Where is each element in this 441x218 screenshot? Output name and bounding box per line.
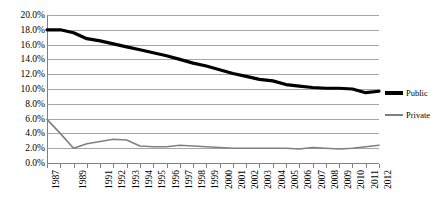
y-tick-label: 4.0% xyxy=(1,129,45,138)
x-tick-mark xyxy=(60,164,61,168)
x-tick-mark xyxy=(246,164,247,168)
x-tick-mark xyxy=(100,164,101,168)
y-tick-label: 6.0% xyxy=(1,114,45,123)
x-tick-mark xyxy=(313,164,314,168)
x-tick-label: 1991 xyxy=(104,170,114,189)
x-tick-label: 1987 xyxy=(51,170,61,189)
plot-area xyxy=(47,15,379,163)
x-tick-label: 2005 xyxy=(290,170,300,189)
x-tick-mark xyxy=(167,164,168,168)
x-tick-mark xyxy=(193,164,194,168)
y-tick-label: 0.0% xyxy=(1,159,45,168)
x-tick-mark xyxy=(47,164,48,168)
x-tick-label: 1995 xyxy=(157,170,167,189)
x-tick-mark xyxy=(379,164,380,168)
x-tick-label: 1992 xyxy=(117,170,127,189)
x-tick-mark xyxy=(127,164,128,168)
x-tick-label: 1993 xyxy=(131,170,141,189)
x-tick-mark xyxy=(74,164,75,168)
x-tick-label: 2010 xyxy=(356,170,366,189)
x-tick-label: 2008 xyxy=(330,170,340,189)
y-tick-label: 16.0% xyxy=(1,40,45,49)
x-tick-label: 2006 xyxy=(303,170,313,189)
legend-item-public: Public xyxy=(385,86,441,100)
x-tick-mark xyxy=(326,164,327,168)
x-tick-mark xyxy=(286,164,287,168)
x-tick-mark xyxy=(352,164,353,168)
x-tick-mark xyxy=(153,164,154,168)
x-tick-mark xyxy=(113,164,114,168)
y-tick-label: 18.0% xyxy=(1,25,45,34)
y-axis-labels: 20.0%18.0%16.0%14.0%12.0%10.0%8.0%6.0%4.… xyxy=(0,0,45,218)
x-tick-mark xyxy=(220,164,221,168)
y-tick-label: 10.0% xyxy=(1,85,45,94)
x-tick-mark xyxy=(259,164,260,168)
line-chart: 20.0%18.0%16.0%14.0%12.0%10.0%8.0%6.0%4.… xyxy=(0,0,441,218)
legend-label-private: Private xyxy=(406,111,430,120)
y-tick-label: 20.0% xyxy=(1,11,45,20)
x-tick-label: 2000 xyxy=(224,170,234,189)
x-tick-mark xyxy=(339,164,340,168)
series-line-private xyxy=(47,119,379,149)
legend-swatch-public-icon xyxy=(385,91,403,95)
x-tick-mark xyxy=(206,164,207,168)
x-tick-label: 2012 xyxy=(383,170,393,189)
x-tick-label: 2004 xyxy=(277,170,287,189)
y-tick-label: 14.0% xyxy=(1,55,45,64)
x-tick-label: 1999 xyxy=(210,170,220,189)
y-tick-label: 2.0% xyxy=(1,144,45,153)
x-tick-label: 1998 xyxy=(197,170,207,189)
x-tick-label: 2011 xyxy=(370,170,380,189)
x-tick-mark xyxy=(233,164,234,168)
x-tick-mark xyxy=(299,164,300,168)
x-tick-label: 2002 xyxy=(250,170,260,189)
x-tick-mark xyxy=(273,164,274,168)
x-tick-label: 2001 xyxy=(237,170,247,189)
x-tick-label: 1994 xyxy=(144,170,154,189)
y-tick-label: 8.0% xyxy=(1,99,45,108)
x-tick-mark xyxy=(87,164,88,168)
legend-item-private: Private xyxy=(385,108,441,122)
x-tick-mark xyxy=(180,164,181,168)
x-tick-label: 1997 xyxy=(184,170,194,189)
x-tick-mark xyxy=(366,164,367,168)
chart-legend: Public Private xyxy=(385,86,441,130)
y-tick-label: 12.0% xyxy=(1,70,45,79)
series-line-public xyxy=(47,30,379,93)
legend-label-public: Public xyxy=(406,89,428,98)
x-tick-mark xyxy=(140,164,141,168)
x-tick-label: 1996 xyxy=(171,170,181,189)
x-tick-label: 2003 xyxy=(263,170,273,189)
x-tick-label: 2009 xyxy=(343,170,353,189)
x-tick-label: 2007 xyxy=(317,170,327,189)
legend-swatch-private-icon xyxy=(385,114,403,116)
series-lines xyxy=(47,15,379,163)
x-tick-label: 1989 xyxy=(78,170,88,189)
x-axis-labels: 1987198919911992199319941995199619971998… xyxy=(47,164,379,218)
